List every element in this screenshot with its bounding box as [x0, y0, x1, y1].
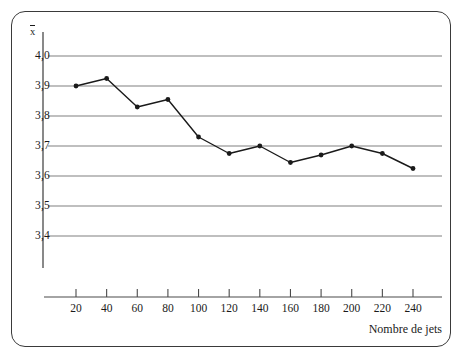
- x-axis-tick-label: 60: [120, 302, 154, 314]
- x-axis-tick-label: 240: [396, 302, 430, 314]
- data-point-marker: [166, 97, 171, 102]
- x-axis-tick-label: 160: [273, 302, 307, 314]
- data-point-marker: [196, 135, 201, 140]
- x-axis-tick-label: 140: [243, 302, 277, 314]
- data-point-marker: [257, 144, 262, 149]
- data-point-marker: [288, 160, 293, 165]
- x-axis-tick-label: 100: [182, 302, 216, 314]
- figure: x Nombre de jets 4,03,93,83,73,63,53,4 2…: [0, 0, 463, 358]
- data-point-marker: [380, 151, 385, 156]
- x-axis-tick-label: 80: [151, 302, 185, 314]
- x-axis-tick-label: 120: [212, 302, 246, 314]
- data-point-marker: [349, 144, 354, 149]
- x-axis-tick-label: 40: [90, 302, 124, 314]
- x-axis-tick-label: 180: [304, 302, 338, 314]
- y-axis-title: x: [30, 26, 35, 37]
- y-axis-tick-label: 3,8: [16, 109, 50, 121]
- data-series-line: [76, 79, 413, 169]
- y-axis-tick-label: 3,9: [16, 79, 50, 91]
- y-axis-tick-label: 3,5: [16, 199, 50, 211]
- x-axis-title: Nombre de jets: [369, 322, 442, 337]
- data-point-marker: [411, 166, 416, 171]
- y-axis-tick-label: 3,4: [16, 229, 50, 241]
- data-point-marker: [74, 84, 79, 89]
- y-axis-tick-label: 3,7: [16, 139, 50, 151]
- y-axis-tick-label: 4,0: [16, 49, 50, 61]
- data-point-marker: [135, 105, 140, 110]
- data-point-marker: [227, 151, 232, 156]
- x-axis-tick-label: 220: [365, 302, 399, 314]
- data-point-marker: [104, 76, 109, 81]
- y-axis-tick-label: 3,6: [16, 169, 50, 181]
- data-point-marker: [319, 153, 324, 158]
- x-axis-tick-label: 20: [59, 302, 93, 314]
- x-axis-tick-label: 200: [335, 302, 369, 314]
